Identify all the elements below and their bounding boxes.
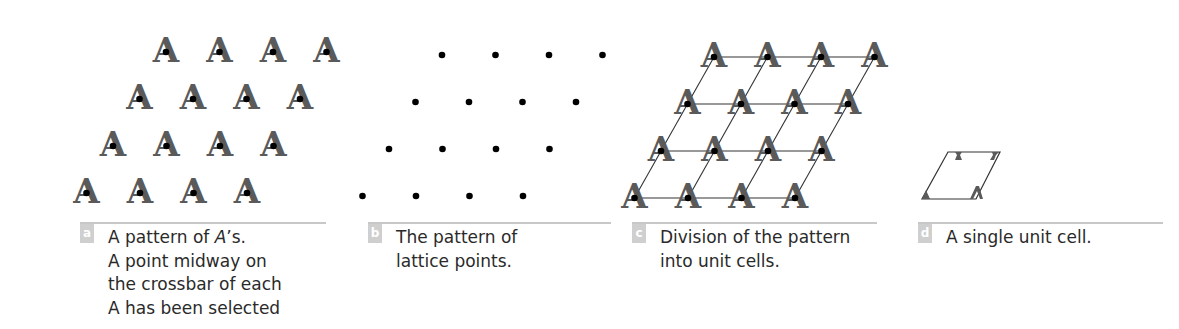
lattice-point (738, 195, 745, 202)
caption-line: into unit cells. (660, 250, 850, 274)
lattice-point (546, 52, 553, 59)
lattice-point (599, 52, 606, 59)
caption-text-c: Division of the pattern into unit cells. (660, 226, 850, 273)
lattice-point (520, 193, 527, 200)
caption-line: A single unit cell. (946, 226, 1092, 250)
lattice-point (244, 190, 251, 197)
lattice-point (684, 101, 691, 108)
lattice-point (792, 195, 799, 202)
caption-rule (80, 222, 326, 224)
lattice-point (818, 148, 825, 155)
panel-d-single-unit-cell (922, 152, 1000, 199)
caption-rule (368, 222, 611, 224)
caption-line: A pattern of A’s. (108, 226, 282, 250)
caption-text-a: A pattern of A’s. A point midway on the … (108, 226, 282, 320)
lattice-point (493, 146, 500, 153)
lattice-point (270, 143, 277, 150)
lattice-point (439, 146, 446, 153)
lattice-point (243, 96, 250, 103)
panel-badge-a: a (80, 224, 94, 243)
lattice-point (631, 195, 638, 202)
caption-line: lattice points. (396, 250, 517, 274)
lattice-point (270, 49, 277, 56)
panel-c-unit-cell-division: AAAAAAAAAAAAAAAA (620, 35, 888, 216)
lattice-point (137, 190, 144, 197)
panel-a-pattern-of-a: AAAAAAAAAAAAAAAA (72, 30, 340, 211)
lattice-point (359, 193, 366, 200)
lattice-point (466, 99, 473, 106)
lattice-point (685, 195, 692, 202)
lattice-point (110, 143, 117, 150)
lattice-point (412, 99, 419, 106)
caption-line: A point midway on (108, 250, 282, 274)
a-fragment-bottom-left-icon (922, 190, 930, 199)
caption-line: The pattern of (396, 226, 517, 250)
panel-badge-c: c (632, 224, 646, 243)
caption-text-b: The pattern of lattice points. (396, 226, 517, 273)
lattice-point (190, 96, 197, 103)
caption-line: A has been selected (108, 297, 282, 321)
lattice-point (519, 99, 526, 106)
lattice-figure: AAAAAAAAAAAAAAAA AAAAAAAAAAAAAAAA a A pa… (0, 0, 1179, 329)
caption-line: Division of the pattern (660, 226, 850, 250)
lattice-point (217, 143, 224, 150)
panel-b-lattice-points (359, 52, 606, 200)
lattice-point (818, 54, 825, 61)
lattice-point (492, 52, 499, 59)
lattice-point (216, 49, 223, 56)
lattice-point (791, 101, 798, 108)
lattice-point (386, 146, 393, 153)
panel-badge-b: b (368, 224, 382, 243)
lattice-point (163, 143, 170, 150)
lattice-point (764, 54, 771, 61)
lattice-point (711, 54, 718, 61)
lattice-point (323, 49, 330, 56)
lattice-point (83, 190, 90, 197)
a-fragment-top-left-icon (955, 152, 962, 160)
caption-rule (918, 222, 1163, 224)
lattice-point (466, 193, 473, 200)
caption-line: the crossbar of each (108, 273, 282, 297)
lattice-point (658, 148, 665, 155)
caption-text-d: A single unit cell. (946, 226, 1092, 250)
lattice-point (711, 148, 718, 155)
lattice-point (765, 148, 772, 155)
lattice-artwork: AAAAAAAAAAAAAAAA AAAAAAAAAAAAAAAA (0, 0, 1179, 220)
panel-badge-d: d (918, 224, 932, 243)
lattice-point (413, 193, 420, 200)
lattice-point (871, 54, 878, 61)
lattice-point (297, 96, 304, 103)
lattice-point (136, 96, 143, 103)
lattice-point (546, 146, 553, 153)
lattice-point (573, 99, 580, 106)
lattice-point (845, 101, 852, 108)
lattice-point (738, 101, 745, 108)
caption-rule (632, 222, 877, 224)
lattice-point (190, 190, 197, 197)
lattice-point (163, 49, 170, 56)
italic-a: A (215, 227, 227, 247)
lattice-point (439, 52, 446, 59)
